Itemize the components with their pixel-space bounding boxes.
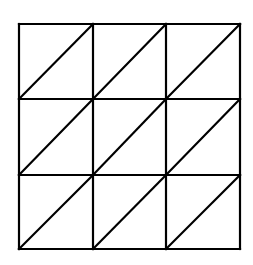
cell-diagonal-line: [166, 24, 240, 99]
cell-diagonal-line: [19, 24, 93, 99]
cell-diagonal-line: [93, 175, 166, 249]
cell-diagonal-line: [19, 175, 93, 249]
cell-diagonal-line: [93, 99, 166, 175]
cell-diagonal-line: [166, 99, 240, 175]
diagonal-lines: [19, 24, 240, 249]
cell-diagonal-line: [93, 24, 166, 99]
cell-diagonal-line: [166, 175, 240, 249]
cell-diagonal-line: [19, 99, 93, 175]
triangulated-grid-diagram: [0, 0, 253, 265]
